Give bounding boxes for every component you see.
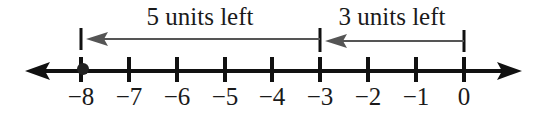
move-label: 5 units left: [147, 3, 254, 30]
tick-label: 0: [458, 83, 471, 110]
tick-label: −1: [403, 83, 430, 110]
move-label: 3 units left: [339, 3, 446, 30]
tick-label: −3: [307, 83, 334, 110]
tick-label: −8: [68, 83, 95, 110]
tick-label: −5: [212, 83, 239, 110]
tick-label: −6: [164, 83, 191, 110]
point-marker: [77, 63, 89, 75]
tick-label: −7: [116, 83, 143, 110]
number-line-diagram: −8 −7 −6 −5 −4 −3 −2 −1 0 3 units left 5…: [0, 0, 547, 113]
move-arrow-3-units: 3 units left: [320, 3, 464, 52]
tick-labels: −8 −7 −6 −5 −4 −3 −2 −1 0: [68, 83, 471, 110]
tick-label: −2: [355, 83, 382, 110]
move-arrow-5-units: 5 units left: [81, 3, 320, 50]
tick-label: −4: [259, 83, 286, 110]
